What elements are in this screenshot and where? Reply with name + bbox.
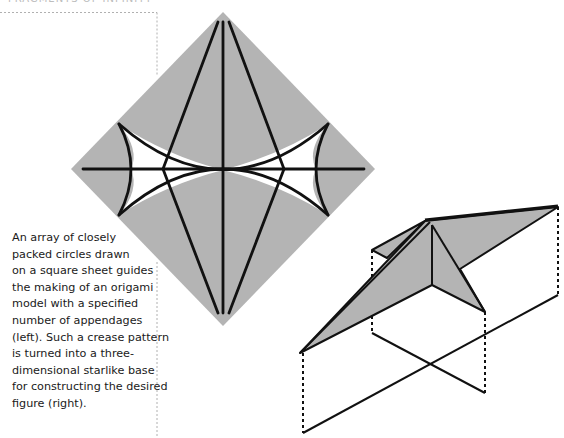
starlike-base-3d-diagram	[300, 206, 558, 433]
caption-line: for constructing the desired	[12, 379, 162, 396]
caption-line: on a square sheet guides	[12, 263, 162, 280]
caption-line: An array of closely	[12, 230, 162, 247]
figure-caption: An array of closely packed circles drawn…	[12, 230, 162, 413]
caption-line: model with a specified	[12, 296, 162, 313]
caption-line: (left). Such a crease pattern	[12, 330, 162, 347]
caption-line: the making of an origami	[12, 280, 162, 297]
caption-line: is turned into a three-	[12, 346, 162, 363]
caption-line: dimensional starlike base	[12, 363, 162, 380]
caption-line: number of appendages	[12, 313, 162, 330]
caption-line: packed circles drawn	[12, 247, 162, 264]
caption-line: figure (right).	[12, 396, 162, 413]
